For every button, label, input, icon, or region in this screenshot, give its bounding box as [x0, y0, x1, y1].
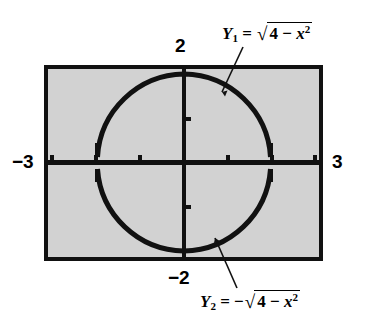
- equation-y2-name: Y: [200, 292, 210, 311]
- axis-label-y-max: 2: [175, 36, 186, 55]
- equation-annotation-y2: Y2 = −√4 − x2: [200, 290, 300, 312]
- axis-label-x-min: −3: [12, 152, 34, 171]
- figure-root: 2 −2 −3 3 Y1 = √4 − x2 Y2 = −√4 − x2: [0, 0, 370, 321]
- equation-y2-equals: =: [220, 292, 230, 311]
- equation-annotation-y1: Y1 = √4 − x2: [222, 22, 312, 44]
- equation-y1-subscript: 1: [232, 32, 238, 44]
- equation-y2-radicand-a: 4: [257, 292, 266, 311]
- equation-y2-radicand-minus: −: [270, 292, 280, 311]
- leader-line-y2: [214, 238, 237, 288]
- axis-label-y-min: −2: [168, 268, 190, 287]
- equation-y1-radicand-var: x: [296, 24, 305, 43]
- equation-y2-subscript: 2: [210, 300, 216, 312]
- radical-sign-icon: √: [245, 292, 255, 311]
- equation-y1-name: Y: [222, 24, 232, 43]
- equation-y1-equals: =: [242, 24, 252, 43]
- radical-sign-icon: √: [257, 24, 267, 43]
- equation-y1-radicand-exp: 2: [305, 23, 311, 35]
- equation-y2-radicand-exp: 2: [292, 291, 298, 303]
- equation-y2-sign: −: [234, 292, 244, 311]
- axis-label-x-max: 3: [332, 152, 343, 171]
- equation-y1-radicand-a: 4: [270, 24, 279, 43]
- equation-y1-radical: √4 − x2: [256, 22, 312, 42]
- equation-y1-radicand-minus: −: [282, 24, 292, 43]
- equation-y2-radical: √4 − x2: [244, 290, 300, 310]
- equation-y1-radicand: 4 − x2: [267, 22, 313, 42]
- equation-y2-radicand: 4 − x2: [254, 290, 300, 310]
